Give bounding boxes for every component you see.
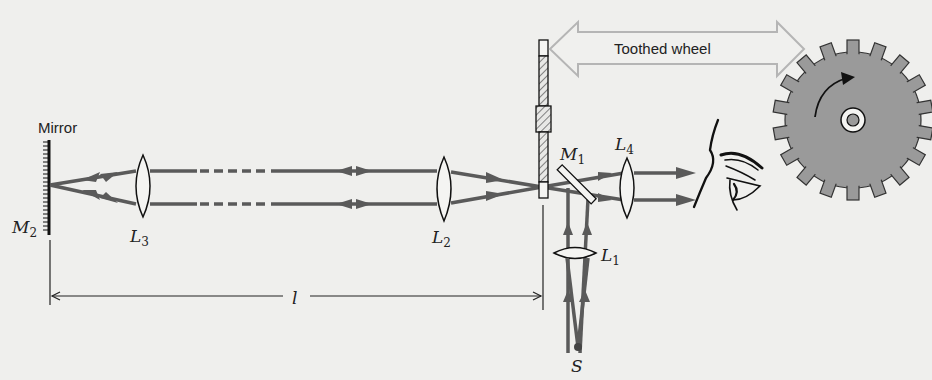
mirror-label: Mirror <box>38 119 77 136</box>
l1-label: L1 <box>600 245 620 268</box>
observer-eye-icon <box>694 120 762 210</box>
distance-label: l <box>292 288 297 308</box>
l3-label: L3 <box>129 226 149 249</box>
light-source <box>574 343 582 351</box>
lens-l1 <box>554 248 596 259</box>
beam-arrows-l2 <box>486 172 504 201</box>
beam-l3-l2 <box>150 171 437 204</box>
l2-label: L2 <box>431 227 451 250</box>
lens-l2 <box>437 157 451 221</box>
lens-l3 <box>136 155 150 217</box>
source-label: S <box>571 356 583 376</box>
beam-source <box>567 258 588 347</box>
beam-l2-focus <box>451 172 542 203</box>
toothed-wheel-gear <box>773 40 932 200</box>
l4-label: L4 <box>614 134 634 157</box>
fizeau-diagram: Mirror M2 L3 L2 <box>0 0 932 380</box>
beam-l4-eye <box>634 173 680 200</box>
m2-label: M2 <box>11 217 37 240</box>
m1-label: M1 <box>559 144 585 167</box>
beam-arrows-eye <box>676 167 696 206</box>
mirror-m2 <box>43 140 49 235</box>
toothed-wheel-label: Toothed wheel <box>614 40 711 57</box>
lens-l4 <box>620 158 634 218</box>
toothed-wheel-section <box>536 40 551 198</box>
